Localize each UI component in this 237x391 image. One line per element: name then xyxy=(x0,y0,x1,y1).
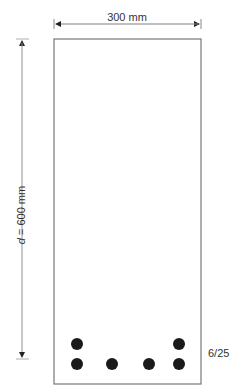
rebar xyxy=(173,358,185,370)
rebar xyxy=(71,358,83,370)
reinforcement-bars xyxy=(71,338,185,370)
rebar xyxy=(143,358,155,370)
reinforcement-label: 6/25 xyxy=(208,347,229,359)
rebar xyxy=(106,358,118,370)
width-dimension: 300 mm xyxy=(54,11,201,29)
rebar xyxy=(173,338,185,350)
rebar xyxy=(71,338,83,350)
depth-label: d = 600 mm xyxy=(15,186,27,244)
beam-section-diagram: 300 mm d = 600 mm 6/25 xyxy=(0,0,237,391)
width-label: 300 mm xyxy=(107,11,147,23)
depth-dimension: d = 600 mm xyxy=(15,39,29,359)
section-outline xyxy=(54,39,201,384)
